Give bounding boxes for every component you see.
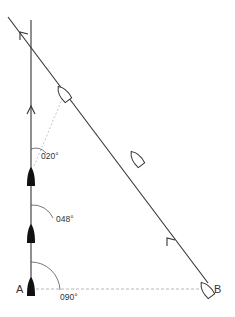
bearing-label-090: 090° [60,292,78,302]
bearing-arc-090 [31,262,60,290]
own-boat-a-icon [27,277,35,296]
other-boat-b-icon [198,280,215,299]
bearing-label-020: 020° [41,151,59,161]
bearing-label-048: 048° [56,214,74,224]
point-label-a: A [16,283,24,295]
bearing-diagram: 020° 048° 090° A B [0,0,235,317]
other-vessel-track [8,17,208,283]
point-label-b: B [214,283,221,295]
own-boat-middle-icon [27,224,35,243]
other-boat-middle-icon [128,149,145,168]
bearing-arc-048 [31,205,53,218]
own-boat-upper-icon [27,167,35,186]
other-boat-upper-icon [55,84,72,103]
other-track-arrow-bottom-icon [167,238,175,246]
